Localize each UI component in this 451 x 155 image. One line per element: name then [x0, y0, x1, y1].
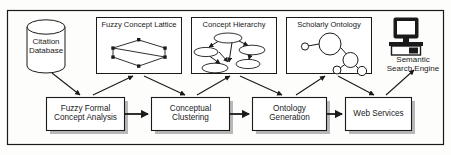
flow-hierarchy-to-ontogen [240, 76, 282, 95]
flow-db-to-ffca [52, 73, 80, 95]
process-boxes [47, 98, 416, 135]
diagram-canvas [0, 0, 451, 155]
desktop-computer-icon [389, 18, 423, 55]
citation-database-shape [27, 20, 65, 73]
process-box-web-services [346, 98, 412, 131]
architecture-diagram: Citation Database Fuzzy Concept Lattice … [0, 0, 451, 155]
fuzzy-concept-lattice-box [97, 18, 182, 74]
scholarly-ontology-box [287, 18, 372, 76]
flow-lattice-to-clustering [144, 76, 185, 95]
process-box-fuzzy-formal-concept-analysis [47, 98, 125, 131]
process-box-ontology-generation [253, 98, 327, 131]
flow-ontogen-to-scholarly [296, 76, 325, 95]
flow-clustering-to-hierarchy [197, 76, 230, 95]
process-box-conceptual-clustering [152, 98, 230, 131]
concept-hierarchy-box [192, 18, 277, 74]
flow-ffca-to-lattice [93, 76, 133, 95]
flow-webservices-to-sse [386, 70, 414, 95]
flow-scholarly-to-webservices [338, 76, 374, 95]
